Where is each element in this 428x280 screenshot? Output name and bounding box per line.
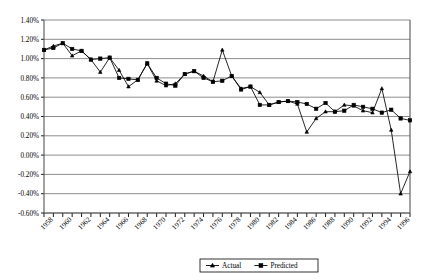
data-point-marker — [174, 84, 177, 87]
data-point-marker — [80, 49, 83, 52]
data-point-marker — [268, 103, 271, 106]
x-axis-tick-label: 1994 — [377, 215, 393, 231]
data-point-marker — [164, 82, 167, 85]
x-tick-marks — [44, 213, 410, 217]
series-line — [44, 43, 410, 120]
y-axis-tick-label: 0.60% — [20, 94, 39, 102]
data-point-marker — [211, 80, 214, 83]
series-predicted — [42, 41, 411, 122]
data-point-marker — [305, 102, 308, 105]
x-axis-tick-label: 1976 — [208, 215, 224, 231]
data-point-marker — [221, 79, 224, 82]
data-point-marker — [108, 56, 111, 59]
data-point-marker — [408, 119, 411, 122]
x-axis-labels: 1958196019621964196619681970197219741976… — [39, 215, 412, 231]
data-point-marker — [380, 111, 383, 114]
gridlines-group — [44, 20, 410, 213]
data-point-marker — [399, 117, 402, 120]
legend-label: Predicted — [270, 262, 298, 270]
y-axis-tick-label: 0.40% — [20, 113, 39, 121]
series-layer — [42, 41, 412, 195]
x-axis-tick-label: 1958 — [39, 215, 55, 231]
x-axis-tick-label: 1992 — [358, 215, 374, 231]
x-axis-tick-label: 1960 — [58, 215, 74, 231]
legend-label: Actual — [222, 262, 241, 270]
data-point-marker — [371, 107, 374, 110]
y-axis-tick-label: 0.20% — [20, 132, 39, 140]
data-point-marker — [286, 99, 289, 102]
x-axis-tick-label: 1962 — [77, 215, 93, 231]
x-axis-tick-label: 1964 — [95, 215, 111, 231]
data-point-marker — [277, 100, 280, 103]
data-point-marker — [333, 110, 336, 113]
data-point-marker — [52, 46, 55, 49]
data-point-marker — [146, 62, 149, 65]
x-axis-tick-label: 1986 — [302, 215, 318, 231]
data-point-marker — [183, 72, 186, 75]
y-axis-tick-label: 1.40% — [20, 17, 39, 25]
data-point-marker — [192, 69, 195, 72]
chart-canvas: 1.40%1.20%1.00%0.80%0.60%0.40%0.20%0.00%… — [0, 0, 428, 280]
data-point-marker — [258, 91, 262, 94]
chart-legend: ActualPredicted — [200, 259, 318, 272]
x-axis-tick-label: 1970 — [152, 215, 168, 231]
data-point-marker — [361, 105, 364, 108]
data-point-marker — [99, 57, 102, 60]
data-point-marker — [221, 48, 225, 51]
y-axis-tick-label: -0.20% — [18, 171, 39, 179]
data-point-marker — [259, 264, 263, 268]
data-point-marker — [70, 47, 73, 50]
data-point-marker — [239, 88, 242, 91]
data-point-marker — [230, 74, 233, 77]
data-point-marker — [89, 58, 92, 61]
data-point-marker — [343, 109, 346, 112]
data-point-marker — [390, 108, 393, 111]
x-axis-tick-label: 1972 — [170, 215, 186, 231]
x-axis-tick-label: 1966 — [114, 215, 130, 231]
data-point-marker — [61, 41, 64, 44]
x-axis-tick-label: 1968 — [133, 215, 149, 231]
data-point-marker — [296, 100, 299, 103]
series-line — [44, 43, 410, 194]
y-axis-labels: 1.40%1.20%1.00%0.80%0.60%0.40%0.20%0.00%… — [18, 17, 39, 218]
y-axis-tick-label: 1.20% — [20, 36, 39, 44]
y-axis-tick-label: -0.40% — [18, 190, 39, 198]
data-point-marker — [380, 87, 384, 90]
x-axis-tick-label: 1988 — [321, 215, 337, 231]
series-actual — [42, 41, 412, 195]
data-point-marker — [202, 76, 205, 79]
data-point-marker — [249, 85, 252, 88]
x-axis-tick-label: 1990 — [339, 215, 355, 231]
y-axis-tick-label: 1.00% — [20, 55, 39, 63]
data-point-marker — [352, 103, 355, 106]
data-point-marker — [389, 128, 393, 131]
data-point-marker — [324, 101, 327, 104]
y-axis-tick-label: -0.60% — [18, 210, 39, 218]
data-point-marker — [42, 48, 45, 51]
data-point-marker — [117, 76, 120, 79]
x-axis-tick-label: 1978 — [227, 215, 243, 231]
data-point-marker — [155, 76, 158, 79]
x-axis-tick-label: 1980 — [245, 215, 261, 231]
data-point-marker — [314, 107, 317, 110]
y-axis-tick-label: 0.80% — [20, 75, 39, 83]
x-axis-tick-label: 1982 — [264, 215, 280, 231]
line-chart: 1.40%1.20%1.00%0.80%0.60%0.40%0.20%0.00%… — [0, 0, 428, 280]
x-axis-tick-label: 1974 — [189, 215, 205, 231]
x-axis-tick-label: 1984 — [283, 215, 299, 231]
data-point-marker — [258, 103, 261, 106]
x-axis-tick-label: 1996 — [396, 215, 412, 231]
y-axis-tick-label: 0.00% — [20, 152, 39, 160]
data-point-marker — [408, 170, 412, 173]
data-point-marker — [136, 78, 139, 81]
data-point-marker — [127, 77, 130, 80]
